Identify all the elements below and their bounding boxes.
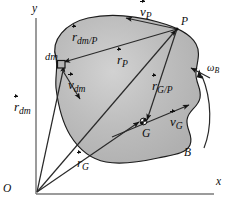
vector-subscript-r-G: G xyxy=(82,161,89,172)
vector-label-v-dm: vdm xyxy=(68,78,86,93)
vector-label-v-P: vP xyxy=(140,5,152,20)
vector-arrow-r-dm: r xyxy=(14,100,19,113)
vector-arrow-r-P: r xyxy=(117,53,122,66)
vector-r-dm xyxy=(37,66,64,192)
vector-subscript-r-dm: dm xyxy=(19,105,31,116)
vector-subscript-r-dm-over-P: dm/P xyxy=(77,35,97,46)
point-P-label: P xyxy=(181,16,188,28)
vector-label-r-G: rG xyxy=(77,156,89,171)
vector-arrow-v-P: v xyxy=(140,5,146,18)
vector-subscript-v-P: P xyxy=(146,10,152,21)
vector-label-v-G: vG xyxy=(170,115,183,130)
vector-subscript-v-G: G xyxy=(176,120,183,131)
x-axis-label: x xyxy=(216,176,221,188)
vector-label-r-G-over-P: rG/P xyxy=(152,79,173,94)
rigid-body-kinematics-figure: y x O P G B dm vP vG vdm rP rG/P rdm/P r… xyxy=(0,0,230,206)
vector-arrow-r-dm-over-P: r xyxy=(72,30,77,43)
vector-arrow-v-G: v xyxy=(170,115,176,128)
y-axis-label: y xyxy=(32,3,37,15)
point-P-marker xyxy=(175,27,178,30)
body-B-label: B xyxy=(184,147,191,159)
vector-subscript-r-G-over-P: G/P xyxy=(157,84,172,95)
angular-velocity-label: ωB xyxy=(207,63,219,75)
vector-arrow-v-dm: v xyxy=(68,78,74,91)
origin-label: O xyxy=(3,183,11,195)
point-G-label: G xyxy=(142,128,150,140)
mass-element-label: dm xyxy=(45,52,58,63)
angular-velocity-arc xyxy=(202,76,210,148)
diagram-canvas xyxy=(0,0,230,206)
vector-subscript-r-P: P xyxy=(122,58,128,69)
vector-label-r-dm: rdm xyxy=(14,100,31,115)
vector-arrow-r-G: r xyxy=(77,156,82,169)
vector-label-r-dm-over-P: rdm/P xyxy=(72,30,97,45)
vector-subscript-v-dm: dm xyxy=(74,83,86,94)
omega-subscript: B xyxy=(214,66,219,75)
dm-element-marker xyxy=(58,61,66,69)
vector-arrow-r-G-over-P: r xyxy=(152,79,157,92)
vector-label-r-P: rP xyxy=(117,53,128,68)
